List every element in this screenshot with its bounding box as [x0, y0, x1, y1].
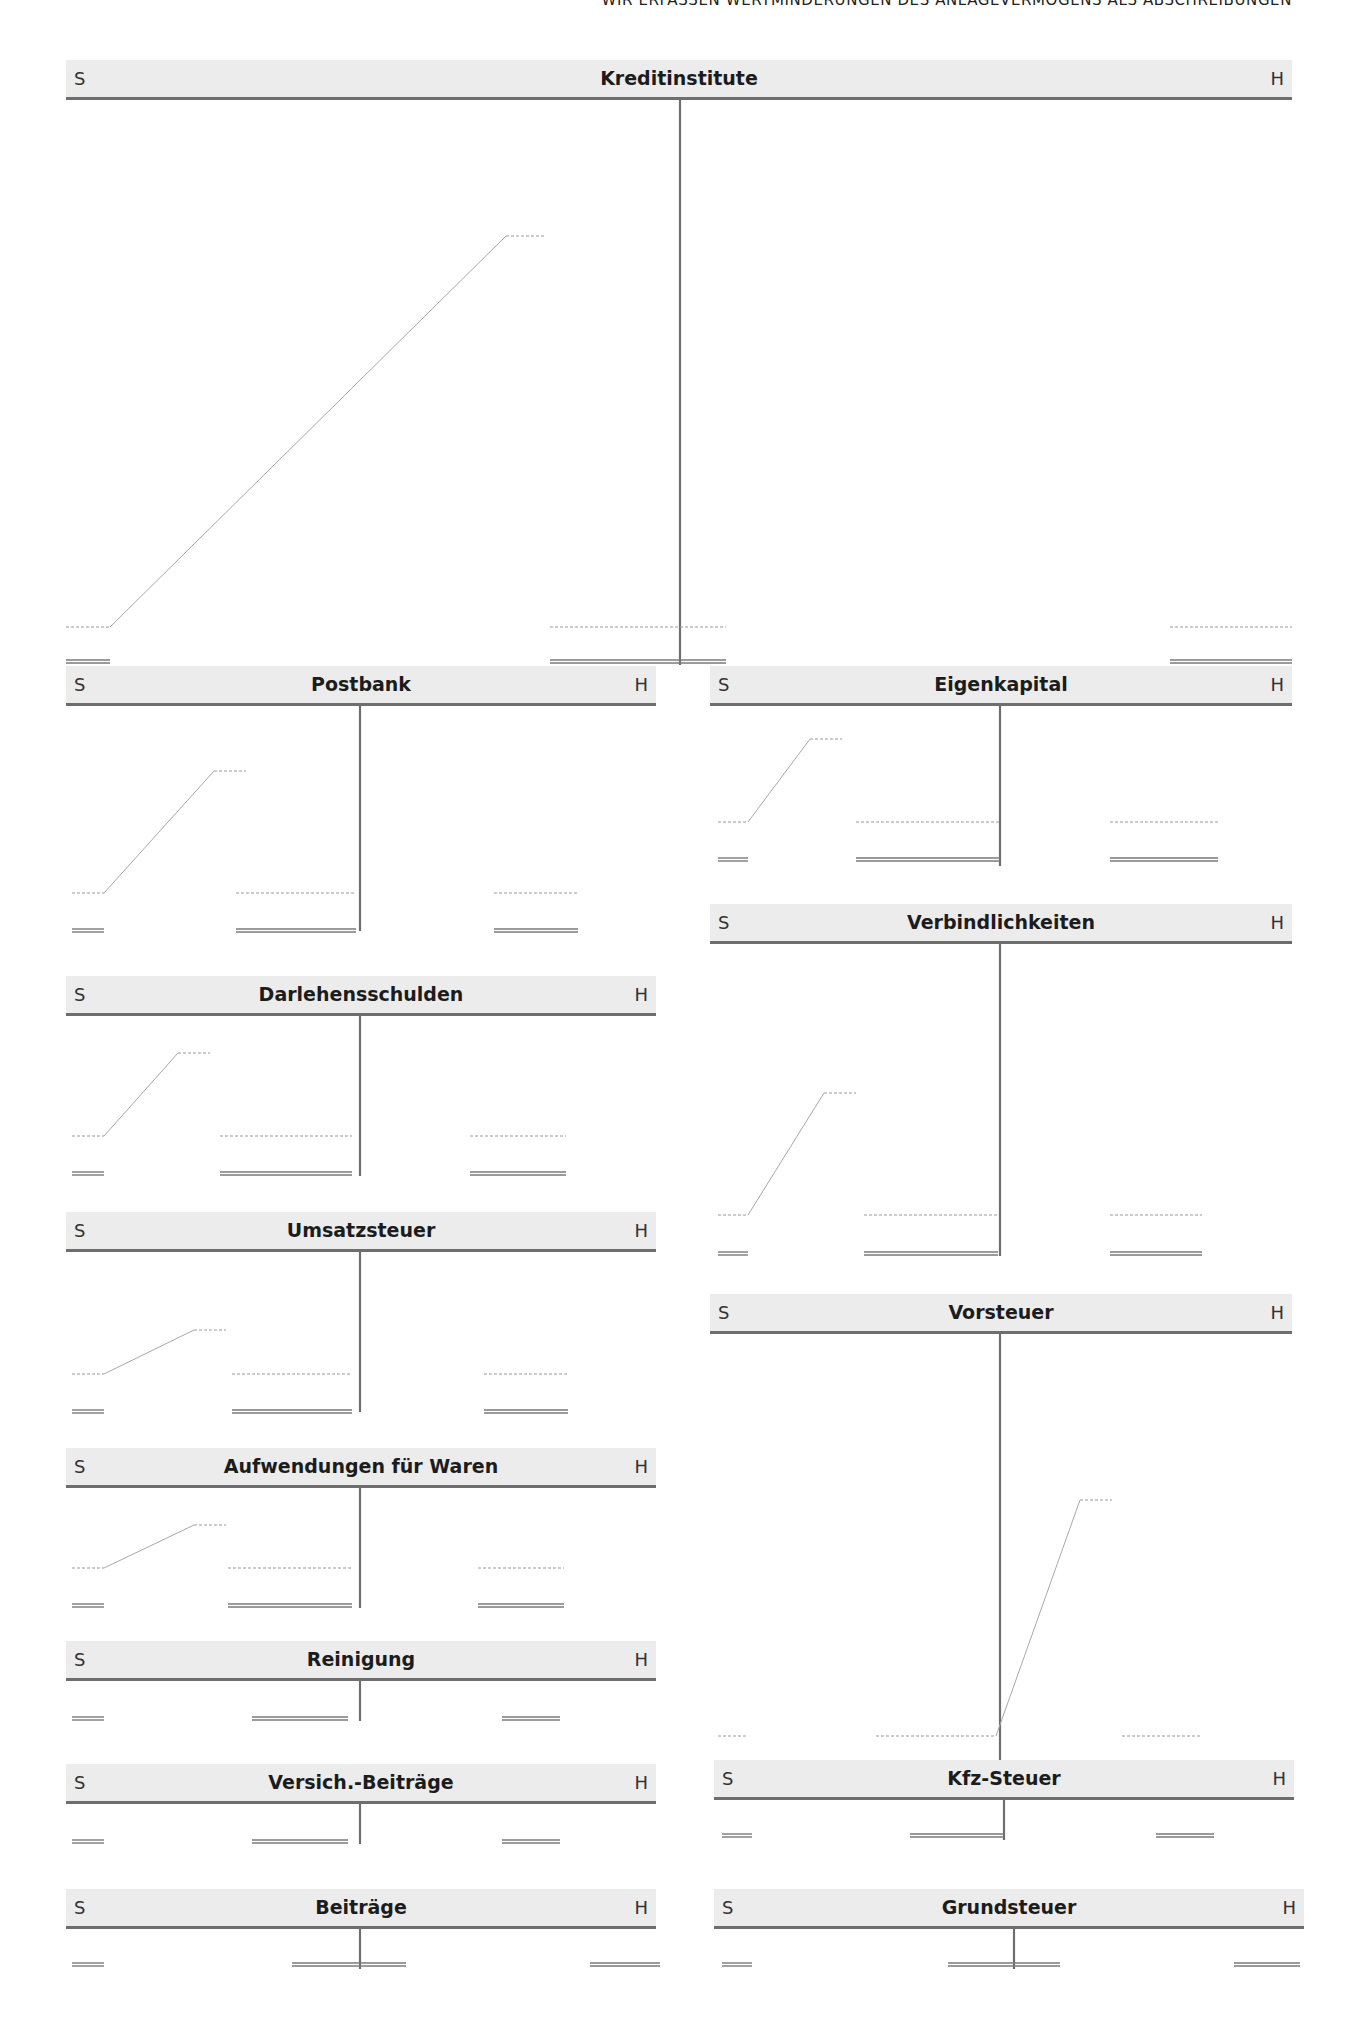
- t-account-body: [714, 1800, 1294, 1846]
- t-account-eigenkapital: S Eigenkapital H: [710, 666, 1292, 872]
- t-account-header: S Postbank H: [66, 666, 656, 706]
- t-account-lines: [66, 1252, 656, 1418]
- t-account-lines: [66, 100, 1292, 671]
- t-account-header: S Darlehensschulden H: [66, 976, 656, 1016]
- account-title: Verbindlichkeiten: [710, 911, 1292, 933]
- credit-label: H: [634, 674, 648, 695]
- account-title: Kreditinstitute: [66, 67, 1292, 89]
- account-title: Reinigung: [66, 1648, 656, 1670]
- t-account-lines: [714, 1929, 1304, 1975]
- t-account-body: [710, 706, 1292, 872]
- buchhalternase-slash: [104, 1525, 194, 1568]
- t-account-lines: [66, 1016, 656, 1182]
- account-title: Versich.-Beiträge: [66, 1771, 656, 1793]
- t-account-lines: [710, 706, 1292, 872]
- buchhalternase-slash: [996, 1500, 1080, 1736]
- t-account-body: [66, 100, 1292, 671]
- account-title: Umsatzsteuer: [66, 1219, 656, 1241]
- credit-label: H: [1270, 912, 1284, 933]
- credit-label: H: [1270, 1302, 1284, 1323]
- credit-label: H: [634, 1456, 648, 1477]
- buchhalternase-slash: [748, 1093, 824, 1215]
- t-account-umsatzsteuer: S Umsatzsteuer H: [66, 1212, 656, 1418]
- credit-label: H: [1270, 68, 1284, 89]
- t-account-lines: [710, 944, 1292, 1262]
- t-account-header: S Vorsteuer H: [710, 1294, 1292, 1334]
- buchhalternase-slash: [104, 1330, 194, 1374]
- buchhalternase-slash: [110, 236, 506, 627]
- t-account-header: S Beiträge H: [66, 1889, 656, 1929]
- t-account-body: [66, 706, 656, 937]
- t-account-body: [66, 1804, 656, 1850]
- t-account-body: [710, 1334, 1292, 1780]
- t-account-header: S Verbindlichkeiten H: [710, 904, 1292, 944]
- t-account-lines: [66, 1929, 656, 1975]
- running-head: Wir erfassen Wertminderungen des Anlagev…: [602, 0, 1292, 9]
- account-title: Kfz-Steuer: [714, 1767, 1294, 1789]
- t-account-vorsteuer: S Vorsteuer H: [710, 1294, 1292, 1780]
- t-account-lines: [66, 1681, 656, 1727]
- credit-label: H: [634, 1772, 648, 1793]
- t-account-body: [714, 1929, 1304, 1975]
- credit-label: H: [634, 984, 648, 1005]
- t-account-aufwendungen-fuer-waren: S Aufwendungen für Waren H: [66, 1448, 656, 1614]
- t-account-postbank: S Postbank H: [66, 666, 656, 937]
- t-account-header: S Kfz-Steuer H: [714, 1760, 1294, 1800]
- credit-label: H: [634, 1220, 648, 1241]
- t-account-body: [710, 944, 1292, 1262]
- t-account-body: [66, 1488, 656, 1614]
- account-title: Postbank: [66, 673, 656, 695]
- t-account-header: S Versich.-Beiträge H: [66, 1764, 656, 1804]
- buchhalternase-slash: [748, 739, 810, 822]
- t-account-header: S Umsatzsteuer H: [66, 1212, 656, 1252]
- credit-label: H: [634, 1649, 648, 1670]
- t-account-lines: [710, 1334, 1292, 1780]
- t-account-reinigung: S Reinigung H: [66, 1641, 656, 1727]
- t-account-header: S Aufwendungen für Waren H: [66, 1448, 656, 1488]
- t-account-versich-beitraege: S Versich.-Beiträge H: [66, 1764, 656, 1850]
- t-account-body: [66, 1252, 656, 1418]
- t-account-body: [66, 1681, 656, 1727]
- t-account-header: S Eigenkapital H: [710, 666, 1292, 706]
- t-account-darlehensschulden: S Darlehensschulden H: [66, 976, 656, 1182]
- t-account-lines: [66, 1804, 656, 1850]
- account-title: Aufwendungen für Waren: [66, 1455, 656, 1477]
- t-account-lines: [714, 1800, 1294, 1846]
- t-account-grundsteuer: S Grundsteuer H: [714, 1889, 1304, 1975]
- credit-label: H: [1272, 1768, 1286, 1789]
- t-account-body: [66, 1016, 656, 1182]
- credit-label: H: [1270, 674, 1284, 695]
- buchhalternase-slash: [104, 1053, 178, 1136]
- t-account-beitraege: S Beiträge H: [66, 1889, 656, 1975]
- t-account-kreditinstitute: S Kreditinstitute H: [66, 60, 1292, 671]
- t-account-verbindlichkeiten: S Verbindlichkeiten H: [710, 904, 1292, 1262]
- account-title: Grundsteuer: [714, 1896, 1304, 1918]
- buchhalternase-slash: [104, 771, 214, 893]
- account-title: Darlehensschulden: [66, 983, 656, 1005]
- account-title: Eigenkapital: [710, 673, 1292, 695]
- t-account-header: S Kreditinstitute H: [66, 60, 1292, 100]
- t-account-lines: [66, 706, 656, 937]
- t-account-header: S Reinigung H: [66, 1641, 656, 1681]
- t-account-kfz-steuer: S Kfz-Steuer H: [714, 1760, 1294, 1846]
- account-title: Vorsteuer: [710, 1301, 1292, 1323]
- account-title: Beiträge: [66, 1896, 656, 1918]
- credit-label: H: [634, 1897, 648, 1918]
- t-account-header: S Grundsteuer H: [714, 1889, 1304, 1929]
- t-account-lines: [66, 1488, 656, 1614]
- credit-label: H: [1282, 1897, 1296, 1918]
- t-account-body: [66, 1929, 656, 1975]
